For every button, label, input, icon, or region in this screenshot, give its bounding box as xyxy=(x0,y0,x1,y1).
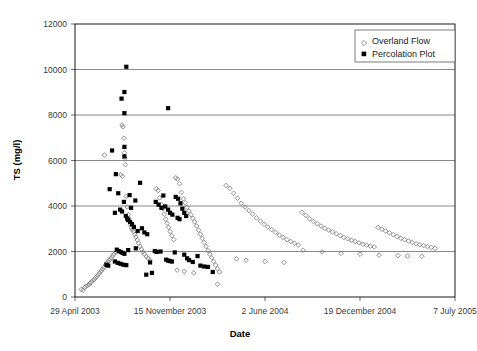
tick-marks-group xyxy=(71,24,455,301)
x-axis-title: Date xyxy=(230,328,251,339)
data-point xyxy=(178,201,182,205)
data-point xyxy=(234,256,239,261)
data-point xyxy=(138,181,142,185)
data-point xyxy=(364,243,369,248)
data-point xyxy=(116,191,120,195)
data-point xyxy=(250,212,255,217)
data-point xyxy=(175,268,180,273)
data-point xyxy=(396,253,401,258)
data-point xyxy=(113,211,117,215)
data-point xyxy=(258,219,263,224)
data-point xyxy=(173,250,177,254)
data-point xyxy=(106,264,110,268)
data-point xyxy=(184,214,188,218)
data-point xyxy=(170,259,174,263)
data-point xyxy=(315,221,320,226)
data-point xyxy=(126,248,130,252)
data-point xyxy=(319,224,324,229)
data-point xyxy=(148,260,152,264)
data-point xyxy=(320,250,325,255)
data-point xyxy=(145,232,149,236)
y-tick-label: 0 xyxy=(62,292,67,302)
data-point xyxy=(102,153,107,158)
data-point xyxy=(124,65,128,69)
data-point xyxy=(202,264,206,268)
x-axis-tick-labels: 29 April 200315 November 20032 June 2004… xyxy=(50,306,477,316)
data-point xyxy=(157,196,162,201)
data-point xyxy=(140,226,144,230)
data-point xyxy=(133,198,137,202)
data-point xyxy=(273,230,278,235)
scatter-chart: 020004000600080001000012000 29 April 200… xyxy=(0,0,477,351)
data-point xyxy=(155,250,159,254)
data-point xyxy=(180,207,184,211)
data-point xyxy=(162,212,167,217)
data-point xyxy=(182,269,187,274)
data-point xyxy=(129,206,133,210)
data-point xyxy=(263,259,268,264)
y-tick-label: 4000 xyxy=(48,201,67,211)
data-point xyxy=(179,190,184,195)
x-tick-label: 15 November 2003 xyxy=(134,306,207,316)
data-point xyxy=(191,271,196,276)
data-point xyxy=(177,217,181,221)
x-tick-label: 29 April 2003 xyxy=(50,306,100,316)
data-point xyxy=(182,253,186,257)
data-point xyxy=(122,200,126,204)
data-point xyxy=(215,282,220,287)
data-point xyxy=(307,216,312,221)
data-point xyxy=(235,196,240,201)
data-point xyxy=(124,263,128,267)
data-point xyxy=(125,205,130,210)
data-point xyxy=(405,254,410,259)
data-point xyxy=(161,193,165,197)
y-tick-label: 10000 xyxy=(43,65,67,75)
y-axis-title: TS (mg/l) xyxy=(11,140,22,181)
data-point xyxy=(247,208,252,213)
data-point xyxy=(433,246,438,251)
y-axis-tick-labels: 020004000600080001000012000 xyxy=(43,19,67,302)
data-point xyxy=(244,258,249,263)
data-point xyxy=(206,265,210,269)
data-point xyxy=(114,172,118,176)
data-point xyxy=(262,222,267,227)
data-point xyxy=(122,136,127,141)
data-point xyxy=(123,162,128,167)
data-point xyxy=(198,264,202,268)
data-point xyxy=(158,249,162,253)
data-point xyxy=(191,260,195,264)
x-tick-label: 7 July 2005 xyxy=(433,306,477,316)
data-point xyxy=(358,252,363,257)
x-tick-label: 19 December 2004 xyxy=(324,306,397,316)
legend-entry-overland-flow: Overland Flow xyxy=(361,36,430,46)
chart-legend: Overland Flow Percolation Plot xyxy=(355,30,455,62)
data-point xyxy=(421,243,426,248)
chart-container: 020004000600080001000012000 29 April 200… xyxy=(0,0,477,351)
data-point xyxy=(239,201,244,206)
data-point xyxy=(254,216,259,221)
data-point xyxy=(377,253,382,258)
legend-label-overland-flow: Overland Flow xyxy=(372,36,431,46)
data-point xyxy=(266,225,271,230)
data-point xyxy=(304,213,309,218)
y-tick-label: 12000 xyxy=(43,19,67,29)
data-point xyxy=(311,219,316,224)
data-point xyxy=(132,225,136,229)
legend-entry-percolation-plot: Percolation Plot xyxy=(362,49,436,59)
data-point xyxy=(135,238,140,243)
y-tick-label: 6000 xyxy=(48,156,67,166)
data-point xyxy=(372,245,377,250)
y-tick-label: 2000 xyxy=(48,247,67,257)
data-point xyxy=(368,244,373,249)
data-point xyxy=(243,205,248,210)
filled-square-icon xyxy=(362,52,367,57)
data-point xyxy=(144,273,148,277)
x-tick-label: 2 June 2004 xyxy=(242,306,289,316)
data-point xyxy=(418,242,423,247)
data-point xyxy=(195,254,199,258)
data-point xyxy=(159,206,163,210)
data-point xyxy=(170,213,174,217)
data-point xyxy=(128,193,132,197)
data-point xyxy=(419,254,424,259)
data-point xyxy=(177,181,182,186)
